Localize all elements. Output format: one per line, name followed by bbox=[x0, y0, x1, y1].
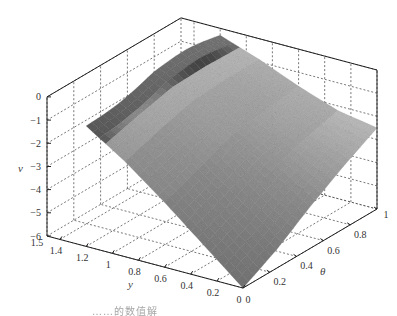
figure-caption: ……的数值解 bbox=[92, 303, 158, 316]
v-tick-label: −5 bbox=[30, 207, 41, 218]
surface-chart: 0−1−2−3−4−5−600.20.40.60.811.21.41.500.2… bbox=[0, 0, 397, 316]
y-tick-label: 1.5 bbox=[31, 237, 44, 248]
y-tick-label: 0.8 bbox=[128, 266, 141, 277]
y-tick-label: 1.4 bbox=[50, 245, 63, 256]
y-tick-label: 0.4 bbox=[180, 280, 193, 291]
theta-tick-label: 1 bbox=[384, 209, 389, 220]
y-axis-label: y bbox=[127, 278, 133, 290]
theta-tick-label: 0.4 bbox=[300, 260, 313, 271]
v-tick-label: −4 bbox=[30, 184, 41, 195]
y-tick-label: 0 bbox=[237, 294, 242, 305]
v-tick-label: −1 bbox=[30, 115, 41, 126]
theta-tick-label: 0 bbox=[246, 294, 251, 305]
v-axis-label: v bbox=[18, 162, 23, 174]
y-tick-label: 1.2 bbox=[76, 252, 89, 263]
theta-axis-label: θ bbox=[320, 265, 326, 277]
theta-tick-label: 0.6 bbox=[327, 245, 340, 256]
y-tick-label: 0.6 bbox=[154, 273, 167, 284]
y-tick-label: 0.2 bbox=[207, 287, 220, 298]
v-tick-label: 0 bbox=[36, 91, 41, 102]
y-tick-label: 1 bbox=[106, 259, 111, 270]
v-tick-label: −2 bbox=[30, 138, 41, 149]
theta-tick-label: 0.2 bbox=[274, 276, 287, 287]
v-tick-label: −3 bbox=[30, 161, 41, 172]
theta-tick-label: 0.8 bbox=[354, 229, 367, 240]
